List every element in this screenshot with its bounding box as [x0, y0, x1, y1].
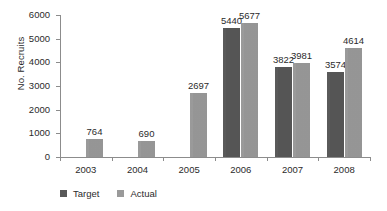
y-tick-label: 1000: [16, 127, 50, 138]
bar-chart: No. Recruits 0100020003000400050006000 2…: [0, 0, 387, 211]
bar-actual-2007: [293, 63, 310, 157]
bar-value-label: 5677: [235, 10, 264, 21]
y-tick-mark: 6000: [56, 15, 60, 16]
bar-value-label: 2697: [184, 80, 213, 91]
y-axis-line: [60, 15, 61, 157]
y-tick-label: 2000: [16, 104, 50, 115]
chart-legend: Target Actual: [60, 188, 157, 199]
legend-item-actual: Actual: [117, 188, 156, 199]
bar-value-label: 690: [132, 128, 161, 139]
bar-actual-2008: [345, 48, 362, 157]
y-tick-label: 4000: [16, 56, 50, 67]
bar-actual-2004: [138, 141, 155, 157]
y-tick-mark: 4000: [56, 62, 60, 63]
x-axis-label: 2003: [60, 164, 112, 175]
plot-area: 0100020003000400050006000 20032004200520…: [60, 15, 370, 157]
x-axis-label: 2007: [267, 164, 319, 175]
bar-value-label: 3981: [287, 50, 316, 61]
x-tick-mark: [112, 157, 113, 161]
y-tick-label: 3000: [16, 80, 50, 91]
x-tick-mark: [267, 157, 268, 161]
x-tick-mark: [215, 157, 216, 161]
y-tick-mark: 2000: [56, 110, 60, 111]
x-tick-mark: [60, 157, 61, 161]
bar-value-label: 764: [80, 126, 109, 137]
x-axis-label: 2006: [215, 164, 267, 175]
bar-actual-2006: [241, 23, 258, 157]
y-tick-mark: 5000: [56, 39, 60, 40]
bar-target-2006: [223, 28, 240, 157]
bar-target-2007: [275, 67, 292, 157]
x-axis-label: 2004: [112, 164, 164, 175]
bar-target-2008: [327, 72, 344, 157]
x-tick-mark: [318, 157, 319, 161]
legend-swatch-target-icon: [60, 190, 67, 197]
bar-value-label: 4614: [339, 35, 368, 46]
y-tick-label: 6000: [16, 9, 50, 20]
legend-label-actual: Actual: [130, 188, 156, 199]
x-axis-label: 2005: [163, 164, 215, 175]
legend-label-target: Target: [73, 188, 99, 199]
legend-item-target: Target: [60, 188, 99, 199]
x-axis-label: 2008: [318, 164, 370, 175]
y-tick-label: 0: [16, 151, 50, 162]
y-tick-label: 5000: [16, 33, 50, 44]
legend-swatch-actual-icon: [117, 190, 124, 197]
bar-actual-2003: [86, 139, 103, 157]
bar-actual-2005: [190, 93, 207, 157]
y-tick-mark: 3000: [56, 86, 60, 87]
y-tick-mark: 1000: [56, 133, 60, 134]
x-tick-mark: [370, 157, 371, 161]
x-tick-mark: [163, 157, 164, 161]
